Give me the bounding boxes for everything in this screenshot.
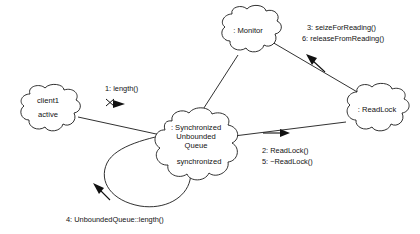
message-1-arrowhead — [113, 100, 125, 108]
diagram-canvas: client1 active : Monitor : Synchronized … — [0, 0, 420, 234]
message-arrow-2-5 — [263, 129, 290, 137]
message-label-6: 6: releaseFromReading() — [302, 34, 384, 43]
node-readlock[interactable]: : ReadLock — [347, 83, 409, 130]
node-monitor[interactable]: : Monitor — [222, 5, 282, 51]
queue-label-line3: Queue — [185, 141, 208, 150]
readlock-label-name: : ReadLock — [358, 105, 397, 114]
message-label-1: 1: length() — [105, 84, 138, 93]
queue-label-line1: : Synchronized — [171, 123, 221, 132]
message-arrow-4 — [93, 183, 110, 200]
message-label-3: 3: seizeForReading() — [307, 23, 376, 32]
queue-label-synchronized: synchronized — [177, 157, 222, 166]
link-monitor-readlock — [272, 42, 359, 93]
message-label-4: 4: UnboundedQueue::length() — [66, 215, 164, 224]
queue-label-line2: Unbounded — [176, 132, 215, 141]
client1-label-active: active — [38, 110, 58, 119]
link-queue-readlock — [226, 122, 346, 137]
message-2-5-arrowhead — [280, 129, 290, 137]
collaboration-diagram: client1 active : Monitor : Synchronized … — [0, 0, 420, 234]
client1-label-name: client1 — [37, 96, 59, 105]
monitor-label-name: : Monitor — [233, 26, 263, 35]
message-arrow-3-6 — [306, 54, 325, 72]
node-client1[interactable]: client1 active — [21, 84, 81, 130]
node-synchronized-unbounded-queue[interactable]: : Synchronized Unbounded Queue synchroni… — [155, 108, 238, 180]
message-label-5: 5: ~ReadLock() — [262, 157, 313, 166]
message-label-2: 2: ReadLock() — [262, 146, 308, 155]
message-arrow-1 — [106, 99, 125, 108]
client1-cloud-outline — [21, 84, 81, 130]
